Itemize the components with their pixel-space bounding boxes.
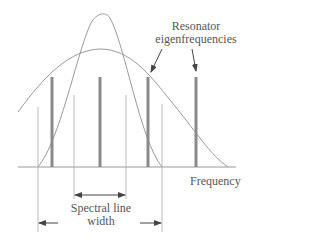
eigenfrequency-bar: [99, 77, 102, 167]
pointer-arrow: [151, 49, 162, 72]
pointer-arrow: [192, 49, 196, 71]
eigenfrequency-bar: [147, 77, 150, 167]
eigenfrequencies-label: Resonator eigenfrequencies: [140, 20, 252, 46]
label-line: eigenfrequencies: [140, 33, 252, 46]
axis-label: Frequency: [190, 175, 241, 188]
label-line: width: [56, 215, 146, 228]
eigenfrequency-bar: [51, 77, 54, 167]
spectral-width-label: Spectral line width: [56, 202, 146, 228]
eigenfrequency-bar: [195, 77, 198, 167]
